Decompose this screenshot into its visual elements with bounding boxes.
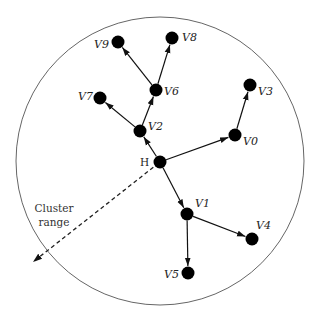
edge-v2-to-v7	[105, 102, 135, 126]
node-v0: V0	[229, 129, 258, 149]
node-dot	[150, 84, 163, 97]
edge-h-to-v2	[144, 137, 157, 157]
cluster-range-indicator: Cluster range	[33, 167, 153, 262]
node-dot	[166, 32, 179, 45]
cluster-range-label-line1: Cluster	[35, 202, 75, 214]
edge-v1-to-v5	[187, 220, 188, 266]
node-label: V7	[78, 90, 93, 103]
node-label: V5	[164, 268, 179, 281]
edge-v6-to-v9	[122, 47, 152, 84]
node-label: V9	[94, 38, 109, 51]
node-label: V1	[195, 197, 210, 210]
node-v9: V9	[94, 36, 125, 52]
node-v3: V3	[244, 79, 273, 99]
node-label: V6	[164, 85, 179, 98]
node-dot	[181, 208, 194, 221]
node-dot	[182, 267, 195, 280]
node-dot	[154, 156, 167, 169]
node-label: V2	[148, 120, 163, 133]
node-label: H	[140, 156, 149, 168]
node-label: V3	[258, 85, 273, 98]
edge-v1-to-v4	[193, 216, 245, 236]
node-label: V8	[182, 31, 197, 44]
node-dot	[94, 92, 107, 105]
node-label: V0	[243, 135, 258, 148]
node-dot	[112, 36, 125, 49]
node-v2: V2	[134, 120, 163, 138]
node-dot	[134, 125, 147, 138]
cluster-range-dashed-arrow	[33, 167, 153, 262]
node-label: V4	[256, 219, 271, 232]
node-v4: V4	[246, 219, 271, 246]
edge-v0-to-v3	[237, 92, 248, 129]
node-h: H	[140, 156, 167, 169]
node-v7: V7	[78, 90, 107, 105]
node-dot	[244, 79, 257, 92]
node-dot	[229, 129, 242, 142]
edge-h-to-v0	[166, 137, 228, 159]
node-v5: V5	[164, 267, 195, 282]
node-v6: V6	[150, 84, 179, 99]
node-dot	[246, 233, 259, 246]
cluster-range-label-line2: range	[39, 216, 70, 228]
edge-v6-to-v8	[158, 45, 170, 84]
cluster-diagram: Cluster range HV0V1V2V3V4V5V6V7V8V9	[0, 0, 317, 324]
edge-h-to-v1	[163, 168, 184, 208]
node-v8: V8	[166, 31, 197, 45]
edges-group	[105, 45, 248, 266]
